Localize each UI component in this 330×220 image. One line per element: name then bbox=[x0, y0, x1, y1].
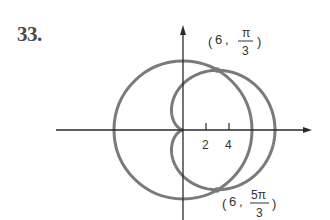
intersection-point-bottom bbox=[214, 187, 220, 193]
svg-text:): ) bbox=[272, 196, 276, 211]
x-axis-arrow-icon bbox=[303, 127, 312, 133]
intersection-label-top: ( 6 , π 3 ) bbox=[208, 26, 261, 58]
label-bottom-r: 6 bbox=[229, 194, 236, 209]
intersection-label-bottom: ( 6 , 5π 3 ) bbox=[222, 188, 276, 220]
label-bottom-num: 5π bbox=[251, 188, 266, 202]
label-top-num: π bbox=[242, 26, 250, 40]
y-axis-arrow-icon bbox=[180, 25, 186, 35]
x-tick-label-4: 4 bbox=[225, 138, 232, 152]
svg-text:): ) bbox=[257, 34, 261, 49]
polar-graph: 2 4 ( 6 , π 3 ) ( 6 , 5π 3 ) bbox=[0, 0, 330, 220]
x-tick-label-2: 2 bbox=[202, 138, 209, 152]
svg-text:,: , bbox=[225, 32, 229, 47]
intersection-point-top bbox=[214, 67, 220, 73]
label-top-den: 3 bbox=[242, 44, 249, 58]
label-top-r: 6 bbox=[215, 32, 222, 47]
svg-text:(: ( bbox=[208, 34, 213, 49]
svg-text:,: , bbox=[239, 194, 243, 209]
svg-text:(: ( bbox=[222, 196, 227, 211]
label-bottom-den: 3 bbox=[256, 206, 263, 220]
